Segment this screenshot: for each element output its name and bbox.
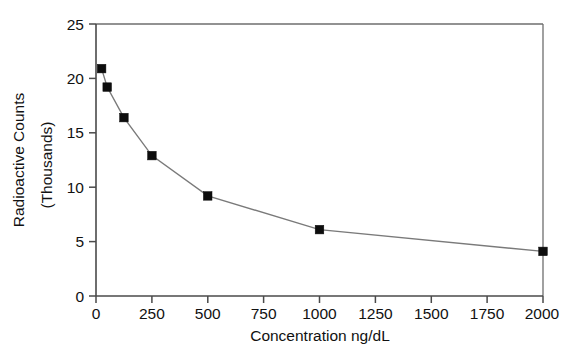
data-point-1 <box>97 64 106 73</box>
x-tick-label-500: 500 <box>195 305 221 322</box>
data-point-4 <box>148 151 157 160</box>
data-point-7 <box>539 247 548 256</box>
x-tick-label-1750: 1750 <box>470 305 505 322</box>
x-tick-label-250: 250 <box>139 305 165 322</box>
y-tick-label-5: 5 <box>75 233 84 250</box>
x-tick-label-1000: 1000 <box>302 305 337 322</box>
x-tick-label-2000: 2000 <box>525 305 560 322</box>
data-point-2 <box>103 83 112 92</box>
x-tick-label-1250: 1250 <box>358 305 393 322</box>
x-axis-tick-labels: 0 250 500 750 1000 1250 1500 1750 2000 <box>92 305 560 322</box>
data-point-6 <box>315 225 324 234</box>
y-tick-label-10: 10 <box>67 179 85 196</box>
x-axis-title: Concentration ng/dL <box>250 327 390 344</box>
chart-figure: 0 5 10 15 20 25 0 250 500 750 1000 1250 <box>0 0 564 348</box>
y-axis-title-line2: (Thousands) <box>38 121 55 208</box>
y-tick-label-15: 15 <box>67 124 84 141</box>
x-tick-label-750: 750 <box>251 305 277 322</box>
y-tick-label-0: 0 <box>75 288 84 305</box>
standard-curve-chart: 0 5 10 15 20 25 0 250 500 750 1000 1250 <box>0 0 564 348</box>
data-point-5 <box>203 192 212 201</box>
x-tick-label-1500: 1500 <box>414 305 449 322</box>
x-tick-label-0: 0 <box>92 305 101 322</box>
y-tick-label-25: 25 <box>67 16 84 33</box>
data-point-3 <box>120 113 129 122</box>
y-tick-label-20: 20 <box>67 70 85 87</box>
y-axis-title-line1: Radioactive Counts <box>10 93 27 228</box>
